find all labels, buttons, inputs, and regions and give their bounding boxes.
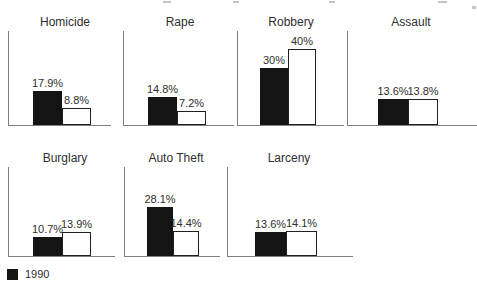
bar-1990-assault: [378, 99, 408, 125]
bar-second-series-homicide: [62, 108, 91, 125]
y-axis-auto-theft: [124, 167, 125, 256]
y-axis-assault: [347, 31, 348, 125]
bar-second-series-larceny: [286, 231, 317, 256]
panel-title-rape: Rape: [138, 16, 222, 29]
value-label-assault-1: 13.8%: [396, 85, 450, 97]
panel-title-assault: Assault: [368, 16, 454, 29]
legend-swatch-1990: [7, 269, 18, 280]
panel-title-larceny: Larceny: [245, 152, 333, 165]
panel-title-robbery: Robbery: [250, 16, 332, 29]
value-label-homicide-1: 8.8%: [50, 94, 103, 106]
bar-second-series-auto-theft: [173, 231, 199, 256]
x-axis-robbery: [237, 125, 344, 126]
x-axis-burglary: [8, 256, 115, 257]
bar-second-series-burglary: [62, 232, 91, 256]
x-axis-homicide: [8, 125, 111, 126]
y-axis-larceny: [227, 167, 228, 256]
value-label-robbery-1: 40%: [276, 35, 328, 47]
cropped-text-remnant: [472, 6, 476, 9]
x-axis-rape: [123, 125, 234, 126]
cropped-text-remnant: [329, 1, 335, 3]
value-label-homicide-0: 17.9%: [21, 77, 74, 89]
legend-label-1990: 1990: [25, 268, 49, 280]
bar-second-series-rape: [177, 111, 206, 125]
panel-title-auto-theft: Auto Theft: [137, 152, 215, 165]
x-axis-auto-theft: [124, 256, 220, 257]
x-axis-larceny: [227, 256, 353, 257]
bar-1990-robbery: [260, 68, 288, 125]
value-label-auto-theft-0: 28.1%: [135, 193, 185, 205]
cropped-text-remnant: [438, 1, 447, 3]
y-axis-homicide: [8, 31, 9, 125]
panel-title-burglary: Burglary: [23, 152, 107, 165]
bar-1990-larceny: [255, 232, 286, 256]
panel-title-homicide: Homicide: [23, 16, 107, 29]
bar-1990-burglary: [33, 237, 62, 256]
y-axis-rape: [123, 31, 124, 125]
bar-1990-auto-theft: [147, 207, 173, 256]
cropped-text-remnant: [163, 1, 171, 3]
value-label-rape-1: 7.2%: [165, 97, 218, 109]
x-axis-assault: [347, 125, 477, 126]
y-axis-burglary: [8, 167, 9, 256]
legend: 1990: [7, 268, 49, 280]
value-label-rape-0: 14.8%: [136, 83, 189, 95]
bar-second-series-assault: [408, 99, 438, 125]
value-label-burglary-1: 13.9%: [50, 218, 103, 230]
value-label-auto-theft-1: 14.4%: [161, 217, 211, 229]
value-label-larceny-1: 14.1%: [274, 217, 329, 229]
bar-second-series-robbery: [288, 49, 316, 125]
y-axis-robbery: [237, 31, 238, 125]
crime-rate-bar-chart-figure: 1990 Homicide17.9%8.8%Rape14.8%7.2%Robbe…: [0, 0, 477, 282]
cropped-text-remnant: [233, 1, 239, 3]
